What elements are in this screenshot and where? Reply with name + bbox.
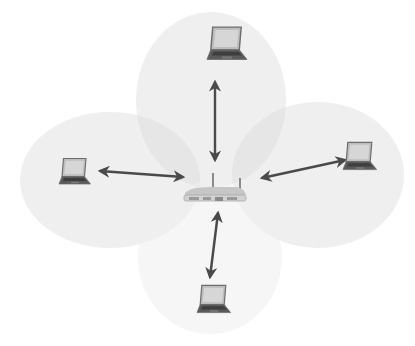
diagram-canvas	[0, 0, 415, 346]
network-diagram	[0, 0, 415, 346]
